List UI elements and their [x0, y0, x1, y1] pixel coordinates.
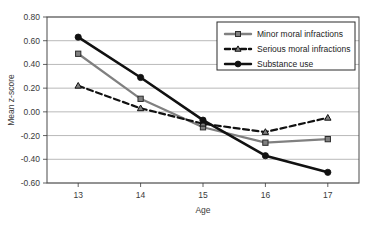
y-tick-label: -0.40: [21, 154, 41, 164]
line-chart: 0.800.600.400.200.00-0.20-0.40-0.60 1314…: [0, 0, 373, 230]
data-point-1-4: [263, 140, 268, 145]
data-point-1-5: [325, 136, 330, 141]
data-point-3-4: [262, 153, 268, 159]
data-point-3-1: [75, 34, 81, 40]
data-point-1-2: [138, 96, 143, 101]
data-point-3-5: [325, 169, 331, 175]
legend-label: Minor moral infractions: [257, 29, 343, 39]
x-axis-ticks: 1314151617: [73, 183, 332, 200]
y-tick-label: 0.00: [23, 107, 40, 117]
y-tick-label: 0.40: [23, 59, 40, 69]
data-point-2-5: [325, 114, 331, 120]
data-point-legend-3: [235, 61, 241, 67]
data-point-2-1: [75, 82, 81, 88]
chart-legend: Minor moral infractionsSerious moral inf…: [217, 22, 355, 70]
data-point-legend-1: [236, 32, 241, 37]
x-axis-title: Age: [195, 205, 210, 215]
y-tick-label: -0.60: [21, 178, 41, 188]
y-axis-ticks: 0.800.600.400.200.00-0.20-0.40-0.60: [21, 12, 47, 188]
x-tick-label: 17: [323, 190, 333, 200]
y-tick-label: 0.20: [23, 83, 40, 93]
chart-container: 0.800.600.400.200.00-0.20-0.40-0.60 1314…: [0, 0, 373, 230]
x-tick-label: 14: [136, 190, 146, 200]
y-axis-title: Mean z-score: [6, 74, 16, 126]
x-tick-label: 16: [261, 190, 271, 200]
y-tick-label: 0.80: [23, 12, 40, 22]
data-point-3-2: [137, 74, 143, 80]
x-tick-label: 13: [73, 190, 83, 200]
data-point-3-3: [200, 117, 206, 123]
data-point-1-1: [76, 51, 81, 56]
y-tick-label: -0.20: [21, 131, 41, 141]
x-tick-label: 15: [198, 190, 208, 200]
y-tick-label: 0.60: [23, 36, 40, 46]
legend-label: Serious moral infractions: [257, 44, 351, 54]
legend-label: Substance use: [257, 59, 314, 69]
